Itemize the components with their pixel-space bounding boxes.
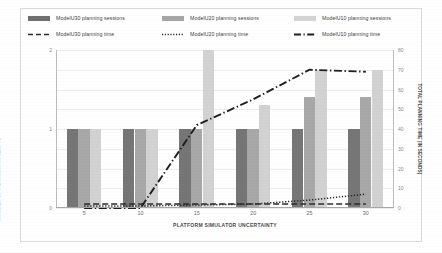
x-axis-title: PLATFORM SIMULATOR UNCERTAINTY bbox=[56, 222, 394, 228]
y-axis-left-tick-label: 0 bbox=[49, 205, 52, 211]
legend-swatch-line-dotted bbox=[162, 32, 184, 37]
y-axis-left-tick-label: 2 bbox=[49, 47, 52, 53]
line-series-layer bbox=[56, 50, 394, 208]
legend-item-u10-sessions: ModelU10 planning sessions bbox=[294, 10, 426, 26]
legend-swatch-line-dashdot bbox=[294, 32, 316, 37]
y-axis-right-title-wrap: TOTAL PLANNING TIME (IN SECONDS) bbox=[410, 50, 422, 208]
legend-label-u30-sessions: ModelU30 planning sessions bbox=[56, 10, 125, 26]
y-axis-right-tick-label: 30 bbox=[398, 146, 404, 152]
legend-column-u30: ModelU30 planning sessions ModelU30 plan… bbox=[28, 10, 160, 42]
y-axis-right-tick-label: 70 bbox=[398, 67, 404, 73]
legend-column-u20: ModelU20 planning sessions ModelU20 plan… bbox=[162, 10, 294, 42]
legend-label-u20-time: ModelU20 planning time bbox=[190, 26, 248, 42]
y-axis-right-tick-label: 40 bbox=[398, 126, 404, 132]
chart-legend: ModelU30 planning sessions ModelU30 plan… bbox=[22, 10, 422, 44]
legend-swatch-bar-u30 bbox=[28, 16, 50, 21]
y-axis-right-tick-label: 50 bbox=[398, 106, 404, 112]
legend-swatch-bar-u10 bbox=[294, 16, 316, 21]
legend-swatch-bar-u20 bbox=[162, 16, 184, 21]
axis-right-spine bbox=[393, 50, 394, 208]
legend-column-u10: ModelU10 planning sessions ModelU10 plan… bbox=[294, 10, 426, 42]
x-axis-tick-label: 30 bbox=[363, 210, 369, 216]
y-axis-left-ticks: 012 bbox=[30, 50, 54, 208]
line-series bbox=[84, 70, 366, 208]
x-axis-tick-label: 25 bbox=[307, 210, 313, 216]
y-axis-right-tick-label: 60 bbox=[398, 87, 404, 93]
chart-root: ModelU30 planning sessions ModelU30 plan… bbox=[0, 0, 442, 253]
y-axis-right-tick-label: 80 bbox=[398, 47, 404, 53]
y-axis-left-tick-label: 1 bbox=[49, 126, 52, 132]
plot-area bbox=[56, 50, 394, 208]
y-axis-left-title: NUMBER OF PLANNING ATTEMPTS bbox=[0, 100, 8, 253]
legend-label-u10-sessions: ModelU10 planning sessions bbox=[322, 10, 391, 26]
legend-swatch-line-dashed bbox=[28, 32, 50, 37]
axis-left-spine bbox=[56, 50, 57, 208]
y-axis-right-tick-label: 10 bbox=[398, 185, 404, 191]
x-axis-ticks: 51015202530 bbox=[56, 210, 394, 222]
x-axis-tick-label: 5 bbox=[83, 210, 86, 216]
legend-label-u10-time: ModelU10 planning time bbox=[322, 26, 380, 42]
legend-item-u20-sessions: ModelU20 planning sessions bbox=[162, 10, 294, 26]
legend-label-u20-sessions: ModelU20 planning sessions bbox=[190, 10, 259, 26]
y-axis-right-title: TOTAL PLANNING TIME (IN SECONDS) bbox=[410, 50, 422, 208]
legend-label-u30-time: ModelU30 planning time bbox=[56, 26, 114, 42]
legend-item-u20-time: ModelU20 planning time bbox=[162, 26, 294, 42]
x-axis-tick-label: 20 bbox=[250, 210, 256, 216]
y-axis-right-tick-label: 20 bbox=[398, 166, 404, 172]
legend-item-u30-sessions: ModelU30 planning sessions bbox=[28, 10, 160, 26]
legend-item-u10-time: ModelU10 planning time bbox=[294, 26, 426, 42]
x-axis-tick-label: 15 bbox=[194, 210, 200, 216]
y-axis-right-tick-label: 0 bbox=[398, 205, 401, 211]
axis-bottom-spine bbox=[56, 207, 394, 208]
legend-item-u30-time: ModelU30 planning time bbox=[28, 26, 160, 42]
x-axis-tick-label: 10 bbox=[138, 210, 144, 216]
